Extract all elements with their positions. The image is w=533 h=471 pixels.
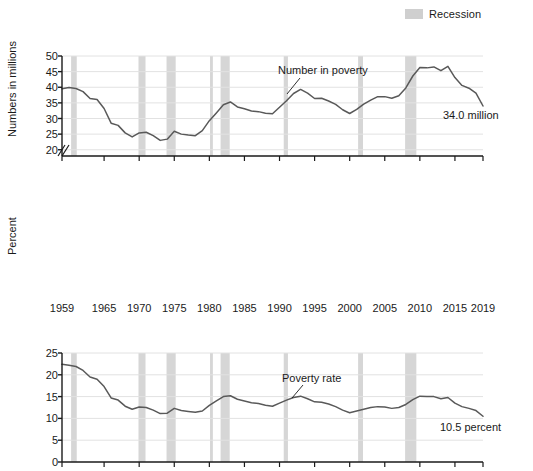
x-tick-label: 2000 bbox=[337, 302, 361, 314]
x-tick-label: 1959 bbox=[50, 302, 74, 314]
x-tick-label: 1995 bbox=[302, 302, 326, 314]
legend-label-recession: Recession bbox=[429, 8, 481, 20]
end-value-annotation-bottom: 10.5 percent bbox=[440, 421, 501, 433]
legend: Recession bbox=[405, 8, 481, 20]
x-tick-label: 1985 bbox=[232, 302, 256, 314]
end-value-annotation-top: 34.0 million bbox=[443, 109, 499, 121]
recession-swatch-icon bbox=[405, 9, 423, 19]
x-tick-label: 1965 bbox=[92, 302, 116, 314]
x-tick-label: 2015 bbox=[443, 302, 467, 314]
x-tick-label: 1980 bbox=[197, 302, 221, 314]
panel-poverty-rate: Percent 0510152025 Poverty rate 10.5 per… bbox=[0, 172, 533, 300]
plot-area-top bbox=[0, 24, 533, 170]
x-tick-label: 2010 bbox=[408, 302, 432, 314]
x-axis-tick-labels: 1959196519701975198019851990199520002005… bbox=[0, 302, 533, 322]
panel-number-in-poverty: Numbers in millions 20253035404550 Numbe… bbox=[0, 24, 533, 154]
x-tick-label: 1990 bbox=[267, 302, 291, 314]
x-tick-label: 2005 bbox=[373, 302, 397, 314]
x-tick-label: 2019 bbox=[471, 302, 495, 314]
x-tick-label: 1970 bbox=[127, 302, 151, 314]
series-annotation-top: Number in poverty bbox=[278, 64, 368, 76]
series-annotation-bottom: Poverty rate bbox=[282, 372, 341, 384]
x-tick-label: 1975 bbox=[162, 302, 186, 314]
